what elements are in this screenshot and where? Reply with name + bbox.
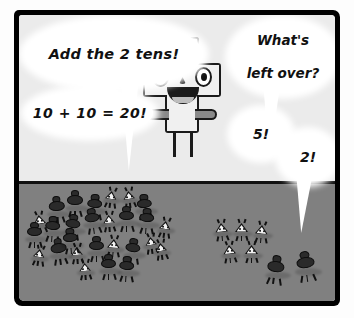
creature-body — [139, 212, 155, 222]
comic-panel: Add the 2 tens! What's left over? 10 + 1… — [0, 0, 354, 318]
creature-body — [105, 190, 118, 200]
right-pupil — [201, 73, 207, 81]
right-leg — [190, 131, 193, 157]
bubble-text-five: 5! — [253, 126, 269, 142]
bubble-text-equation: 10 + 10 = 20! — [33, 105, 147, 121]
creature-body — [245, 245, 258, 254]
creature-dark — [118, 260, 134, 276]
left-leg — [173, 131, 176, 157]
creature-leg — [70, 248, 72, 254]
creature-antenna — [162, 239, 164, 243]
creature-dark — [84, 212, 101, 229]
creature-antenna — [114, 188, 117, 192]
creature-leg — [136, 258, 138, 264]
creature-leg — [251, 258, 253, 263]
right-eye — [195, 67, 212, 87]
creature-leg — [221, 236, 223, 241]
bubble-line-1: What's — [247, 32, 320, 49]
creature-body — [122, 190, 135, 200]
creature-eye — [87, 268, 89, 270]
creature-dark — [89, 241, 104, 256]
bubble-text-left-over: What's left over? — [247, 32, 320, 83]
creature-light — [79, 263, 92, 276]
creature-body — [214, 222, 228, 232]
creature-body — [103, 215, 116, 224]
creature-antenna — [130, 187, 132, 191]
creature-dark — [101, 259, 116, 274]
creature-body — [84, 212, 100, 223]
creature-dark — [27, 227, 42, 242]
creature-antenna — [111, 211, 113, 215]
creature-leg — [54, 259, 56, 266]
creature-light — [122, 190, 136, 204]
creature-light — [222, 244, 236, 258]
creature-eye — [239, 228, 241, 230]
creature-eye — [162, 247, 164, 249]
creature-body — [33, 248, 46, 258]
right-arm — [195, 109, 217, 120]
bubble-text-add-tens: Add the 2 tens! — [49, 46, 180, 62]
creature-light — [103, 215, 116, 228]
creature-body — [101, 259, 116, 268]
creature-light — [154, 242, 168, 256]
creature-body — [119, 260, 135, 270]
creature-leg — [108, 274, 110, 280]
creature-light — [214, 222, 228, 236]
creature-body — [79, 263, 92, 272]
bubble-line-2: left over? — [247, 65, 320, 82]
creature-light — [104, 190, 118, 204]
creature-body — [296, 256, 315, 270]
creature-leg — [126, 226, 128, 232]
creature-body — [107, 239, 121, 249]
creature-dark — [44, 220, 60, 236]
creature-leg — [34, 242, 36, 248]
creature-antenna — [163, 217, 165, 221]
creature-body — [222, 244, 236, 254]
creature-eye — [130, 195, 132, 197]
creature-body — [67, 195, 83, 205]
creature-dark — [119, 211, 134, 226]
creature-body — [45, 220, 61, 230]
speech-bubble-add-tens: Add the 2 tens! — [25, 21, 203, 87]
creature-leg — [85, 275, 87, 280]
creature-antenna — [87, 259, 89, 263]
creature-light — [107, 239, 121, 253]
creature-eye — [249, 250, 251, 252]
creature-antenna — [37, 245, 39, 249]
creature-antenna — [152, 233, 154, 237]
creature-eye — [41, 254, 43, 256]
creature-eye — [259, 230, 261, 232]
creature-antenna — [42, 246, 45, 250]
creature-leg — [96, 256, 98, 262]
speech-bubble-left-over: What's left over? — [231, 21, 335, 93]
panel-inner: Add the 2 tens! What's left over? 10 + 1… — [19, 15, 335, 301]
creature-body — [119, 211, 134, 220]
creature-dark — [266, 260, 285, 279]
creature-light — [32, 248, 46, 262]
creature-body — [255, 224, 269, 234]
creature-antenna — [168, 218, 171, 222]
creature-light — [245, 245, 258, 258]
creature-dark — [138, 212, 154, 228]
creature-body — [27, 227, 42, 236]
creature-leg — [109, 227, 111, 232]
creature-body — [267, 260, 285, 273]
creature-body — [235, 223, 248, 232]
creature-leg — [88, 228, 90, 234]
creature-light — [158, 220, 172, 234]
creature-body — [159, 220, 172, 230]
speech-bubble-equation: 10 + 10 = 20! — [27, 91, 153, 135]
creature-dark — [296, 256, 316, 276]
creature-dark — [67, 195, 83, 211]
creature-antenna — [109, 187, 111, 191]
creature-body — [89, 241, 104, 250]
creature-dark — [62, 232, 78, 248]
speech-bubble-five: 5! — [233, 111, 289, 157]
bubble-text-two: 2! — [300, 149, 316, 165]
creature-eye — [167, 226, 169, 228]
creature-body — [48, 200, 65, 211]
creature-leg — [229, 258, 231, 263]
creature-light — [235, 223, 248, 236]
creature-body — [62, 232, 78, 242]
creature-eye — [111, 244, 113, 246]
